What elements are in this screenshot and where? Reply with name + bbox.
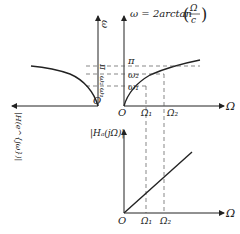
Omega2-label: Ω₂ [166,108,178,118]
analog-response-line [124,152,192,213]
paren-left: ( [183,5,189,24]
left-omega-label: ω [100,20,111,28]
Omega-axis-label: Ω [225,100,235,113]
mapping-plot: π ω₂ ω₁ O Ω₁ Ω₂ Ω ω = 2arctan ( Ω c ) [86,3,235,213]
left-mag-label: |H(e^{jω})| [14,112,23,161]
origin-label: O [118,107,126,118]
analog-response-plot: |Hₐ(jΩ)| O Ω₁ Ω₂ Ω [90,128,235,226]
analog-mag-label: |Hₐ(jΩ)| [90,128,125,139]
analog-Omega-axis-label: Ω [225,207,235,220]
omega2-label: ω₂ [128,70,139,80]
omega1-label: ω₁ [128,82,139,92]
analog-Omega2-label: Ω₂ [159,216,171,226]
digital-response-plot: ω π ω₂ ω₁ O |H(e^{jω})| [12,16,111,161]
Omega1-label: Ω₁ [140,108,152,118]
paren-right: ) [201,5,207,24]
analog-Omega1-label: Ω₁ [140,216,152,226]
pi-label: π [127,55,135,66]
bilinear-diagram: π ω₂ ω₁ O Ω₁ Ω₂ Ω ω = 2arctan ( Ω c ) ω … [0,0,240,234]
left-origin-label: O [93,95,101,106]
left-omega2-label: ω₂ [98,76,107,86]
analog-origin-label: O [118,215,126,226]
formula-den: c [191,15,196,25]
left-pi-label: π [98,63,108,71]
formula-num: Ω [189,3,198,13]
